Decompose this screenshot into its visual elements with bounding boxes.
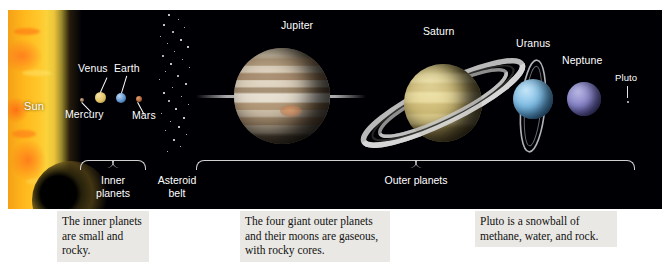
inner-planets-group-label: Inner planets [70, 174, 156, 199]
venus-leader-line [100, 77, 107, 92]
asteroid-belt [154, 10, 198, 158]
planet-earth [116, 93, 126, 103]
caption-pluto: Pluto is a snowball of methane, water, a… [475, 211, 617, 247]
jupiter-great-red-spot [280, 105, 302, 117]
sun-texture-streak [22, 70, 52, 76]
planet-venus [95, 92, 106, 103]
pluto-pointer-line [627, 86, 628, 98]
label-neptune: Neptune [562, 54, 602, 66]
saturn-bands [404, 64, 482, 142]
caption-inner-planets: The inner planets are small and rocky. [57, 211, 149, 262]
sun-texture-streak [14, 28, 40, 35]
inner-planets-bracket [80, 160, 146, 172]
sun-label: Sun [24, 100, 44, 112]
outer-planets-bracket [196, 160, 635, 172]
label-mercury: Mercury [65, 108, 104, 120]
label-uranus: Uranus [516, 37, 550, 49]
sun-texture-streak [12, 130, 36, 138]
label-pluto: Pluto [615, 72, 637, 83]
label-jupiter: Jupiter [281, 19, 313, 31]
space-image-plate: Sun Mercury Venus Earth Mars Inner plane… [8, 10, 662, 209]
planet-pluto [627, 101, 629, 103]
label-venus: Venus [78, 62, 108, 74]
label-earth: Earth [114, 62, 140, 74]
asteroid-belt-group-label: Asteroid belt [150, 174, 204, 199]
caption-outer-planets: The four giant outer planets and their m… [240, 211, 390, 262]
outer-planets-group-label: Outer planets [356, 174, 476, 187]
planet-uranus [513, 79, 553, 119]
earth-leader-line [121, 76, 127, 94]
planet-neptune [567, 82, 601, 116]
label-mars: Mars [132, 109, 156, 121]
planet-jupiter [234, 48, 330, 144]
